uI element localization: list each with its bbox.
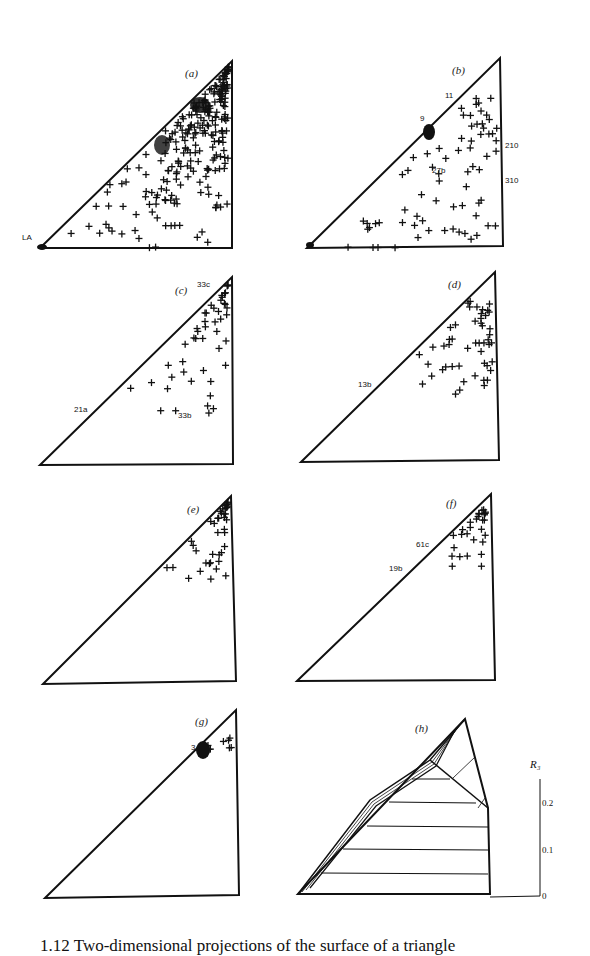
triangle-e (43, 496, 236, 684)
cluster-blob-a (190, 97, 210, 113)
cluster-blob-b (423, 124, 435, 140)
panel-label-c: (c) (175, 284, 187, 296)
point-label-la: LA (22, 233, 32, 242)
panel-label-a: (a) (185, 67, 198, 79)
triangle-a (40, 61, 232, 248)
triangle-d (301, 272, 499, 462)
panel-label-d: (d) (448, 278, 461, 290)
point-label-33c: 33c (197, 280, 210, 289)
triangle-f (297, 494, 495, 681)
point-label-33b: 33b (178, 411, 191, 420)
cluster-blob-a2 (154, 135, 170, 155)
panel-label-e: (e) (187, 503, 199, 515)
panel-label-h: (h) (415, 722, 428, 734)
point-label-13b: 13b (358, 380, 371, 389)
scatter-a (68, 63, 233, 251)
axis-tick-0.1: 0.1 (542, 845, 553, 855)
point-label-21a: 21a (74, 405, 87, 414)
cluster-blob-b-origin (306, 242, 314, 248)
point-label-9: 9 (420, 114, 424, 123)
point-label-19b: 19b (389, 564, 402, 573)
triangle-b (307, 58, 503, 248)
triangle-g (45, 710, 239, 898)
point-label-3: 3 (191, 743, 195, 752)
point-label-210: 210 (505, 141, 518, 150)
figure-caption: 1.12 Two-dimensional projections of the … (40, 936, 455, 956)
cluster-blob-g (196, 741, 210, 759)
axis-tick-0.2: 0.2 (542, 798, 553, 808)
scatter-d (416, 298, 496, 398)
panel-label-b: (b) (452, 64, 465, 76)
point-label-27b: 27b (432, 166, 445, 175)
axis-tick-0: 0 (542, 891, 547, 901)
scatter-c (127, 281, 231, 416)
panel-label-f: (f) (446, 497, 456, 509)
cluster-blob-la (37, 244, 47, 250)
point-label-61c: 61c (416, 540, 429, 549)
point-label-310: 310 (505, 176, 518, 185)
axis-title-r3: R₃ (530, 758, 541, 770)
panel-label-g: (g) (195, 715, 208, 727)
point-label-11: 11 (445, 91, 453, 100)
surface-h (298, 719, 540, 897)
